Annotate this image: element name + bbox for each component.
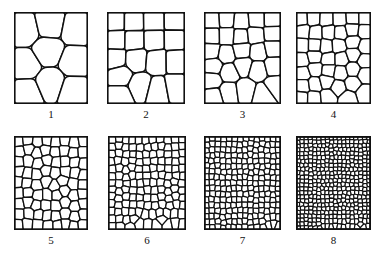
grain-cell [166,50,185,74]
grain-cell [359,12,371,25]
grain-cell [114,202,122,209]
grain-cell [204,88,223,104]
grain-panel-label-4: 4 [296,108,371,120]
grain-structure [14,136,88,230]
grain-size-chart: 12345678 [0,0,378,261]
grain-cell [22,167,32,178]
grain-cell [124,12,143,31]
grain-cell [35,12,65,38]
grain-cell [296,12,308,26]
grain-panel-2 [107,12,185,104]
grain-cell [333,12,346,26]
grain-cell [61,12,88,46]
grain-cell [264,57,281,76]
grain-cell [258,180,264,186]
grain-cell [125,30,144,50]
grain-cell [296,91,308,104]
grain-panel-label-2: 2 [107,108,185,120]
grain-cell [143,194,151,202]
grain-panel-label-5: 5 [14,234,88,246]
grain-cell [107,30,125,49]
grain-panel-frame [296,12,371,104]
grain-cell [308,39,320,52]
grain-cell [296,25,310,39]
grain-cell [350,219,355,224]
grain-cell [233,29,248,44]
grain-cell [164,12,185,30]
grain-structure [296,12,371,104]
grain-cell [204,28,219,44]
grain-panel-frame [204,136,281,230]
grain-cell [320,39,332,54]
grain-cell [142,150,149,158]
grain-cell [171,143,179,151]
grain-panel-frame [108,136,186,230]
grain-cell [129,187,137,194]
grain-cell [146,49,167,75]
grain-cell [296,38,309,53]
grain-cell [226,147,231,153]
grain-cell [107,12,124,31]
grain-cell [264,41,281,57]
grain-structure [204,12,281,104]
grain-cell [231,191,237,197]
grain-cell [264,12,281,27]
grain-cell [264,174,270,180]
grain-panel-frame [14,136,88,230]
grain-cell [219,12,235,28]
grain-cell [253,175,259,181]
grain-cell [41,200,51,211]
grain-cell [170,208,178,218]
grain-cell [22,218,32,230]
grain-cell [209,219,215,225]
grain-cell [143,172,151,179]
grain-cell [122,186,130,193]
grain-cell [204,12,220,28]
grain-panel-label-7: 7 [204,234,281,246]
grain-cell [143,179,150,186]
grain-panel-1 [14,12,88,104]
grain-panel-frame [107,12,185,104]
grain-cell [130,179,137,187]
grain-structure [296,136,371,230]
grain-panel-frame [296,136,371,230]
grain-cell [320,12,334,26]
grain-cell [237,196,242,202]
grain-panel-4 [296,12,371,104]
grain-cell [129,171,136,180]
grain-cell [321,52,335,65]
grain-cell [248,12,264,28]
grain-panel-8 [296,136,371,230]
grain-cell [214,197,220,203]
grain-cell [135,165,143,172]
grain-cell [247,27,264,44]
grain-cell [358,24,371,38]
grain-cell [68,148,78,159]
grain-cell [34,209,44,220]
grain-cell [42,210,51,221]
grain-panel-label-1: 1 [14,108,88,120]
grain-cell [143,219,152,230]
grain-cell [209,208,215,214]
grain-panel-frame [14,12,88,104]
grain-cell [164,151,172,158]
grain-cell [144,186,152,194]
grain-cell [264,26,281,41]
grain-cell [307,12,320,26]
grain-cell [129,194,136,201]
grain-cell [219,28,234,46]
grain-structure [204,136,281,230]
grain-cell [43,188,52,200]
grain-cell [129,144,136,151]
grain-cell [150,178,157,187]
grain-cell [309,25,322,40]
grain-cell [322,25,335,40]
grain-cell [231,158,237,164]
grain-cell [214,152,219,158]
grain-cell [363,171,367,175]
grain-cell [51,156,61,167]
grain-cell [247,175,253,180]
grain-panel-3 [204,12,281,104]
grain-cell [270,141,276,147]
grain-structure [14,12,88,104]
